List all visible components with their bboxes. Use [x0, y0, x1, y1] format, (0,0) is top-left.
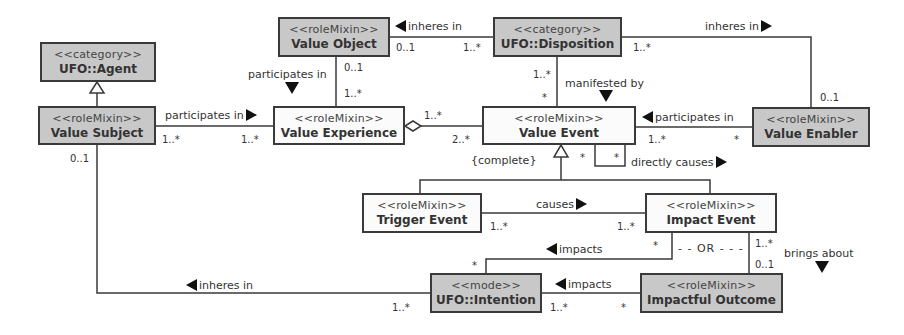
mult: 2..*: [452, 134, 470, 145]
mult: 1..*: [490, 221, 508, 232]
class-name: Value Enabler: [764, 127, 857, 142]
mult: 0..1: [396, 42, 415, 53]
label-vo-inheres-in: inheres in: [395, 20, 462, 33]
generalization-set-constraint: {complete}: [471, 155, 536, 167]
mult: 1..*: [533, 69, 551, 80]
mult: 1..*: [633, 42, 651, 53]
mult: *: [580, 152, 585, 163]
class-name: Value Subject: [51, 126, 144, 141]
class-value-object[interactable]: <<roleMixin>> Value Object: [278, 17, 390, 57]
mult: 1..*: [241, 134, 259, 145]
class-name: Trigger Event: [377, 213, 468, 228]
mult: *: [653, 240, 658, 251]
class-name: Impact Event: [666, 213, 755, 228]
class-value-event[interactable]: <<roleMixin>> Value Event: [482, 106, 636, 145]
class-value-subject[interactable]: <<roleMixin>> Value Subject: [38, 106, 156, 145]
stereotype: <<roleMixin>>: [667, 278, 756, 293]
mult: 1..*: [617, 221, 635, 232]
label-enabler-participates-in: participates in: [642, 111, 734, 124]
mult: 1..*: [162, 134, 180, 145]
mult: 0..1: [344, 62, 363, 73]
class-name: Value Event: [519, 126, 599, 141]
class-impactful-outcome[interactable]: <<roleMixin>> Impactful Outcome: [640, 273, 783, 313]
direction-arrow-icon: [285, 82, 299, 94]
class-name: UFO::Agent: [59, 62, 137, 77]
class-value-enabler[interactable]: <<roleMixin>> Value Enabler: [752, 107, 870, 147]
stereotype: <<roleMixin>>: [52, 111, 141, 126]
class-ufo-disposition[interactable]: <<category>> UFO::Disposition: [493, 17, 622, 57]
mult: 1..*: [344, 88, 362, 99]
mult: 1..*: [463, 42, 481, 53]
mult: *: [542, 92, 547, 103]
class-value-experience[interactable]: <<roleMixin>> Value Experience: [273, 106, 405, 145]
mult: 1..*: [550, 302, 568, 313]
mult: 1..*: [755, 238, 773, 249]
mult: 0..1: [820, 92, 839, 103]
class-name: Value Experience: [281, 126, 397, 141]
stereotype: <<category>>: [514, 22, 602, 37]
mult: *: [734, 134, 739, 145]
class-ufo-agent[interactable]: <<category>> UFO::Agent: [40, 42, 156, 82]
stereotype: <<roleMixin>>: [766, 112, 855, 127]
stereotype: <<category>>: [54, 47, 142, 62]
label-vs-participates-in: participates in: [165, 109, 257, 122]
or-constraint: - - OR - - -: [678, 243, 744, 255]
mult: 1..*: [424, 110, 442, 121]
direction-arrow-icon: [815, 261, 829, 273]
mult: 0..1: [70, 153, 89, 164]
label-outcome-impacts: impacts: [555, 278, 612, 291]
stereotype: <<roleMixin>>: [666, 198, 755, 213]
class-ufo-intention[interactable]: <<mode>> UFO::Intention: [430, 273, 542, 313]
class-name: Impactful Outcome: [647, 293, 776, 308]
class-name: UFO::Disposition: [501, 37, 615, 52]
label-intention-inheres-in: inheres in: [186, 279, 253, 292]
stereotype: <<roleMixin>>: [289, 22, 378, 37]
class-name: Value Object: [291, 37, 377, 52]
class-name: UFO::Intention: [436, 293, 536, 308]
stereotype: <<roleMixin>>: [294, 111, 383, 126]
stereotype: <<mode>>: [451, 278, 521, 293]
mult: 1..*: [392, 302, 410, 313]
mult: *: [621, 302, 626, 313]
stereotype: <<roleMixin>>: [514, 111, 603, 126]
stereotype: <<roleMixin>>: [377, 198, 466, 213]
label-causes: causes: [536, 198, 587, 211]
mult: *: [614, 152, 619, 163]
mult: 1..*: [648, 134, 666, 145]
label-disp-inheres-in: inheres in: [705, 20, 772, 33]
label-vo-participates-in: participates in: [248, 69, 327, 81]
direction-arrow-icon: [599, 90, 613, 102]
mult: *: [472, 260, 477, 271]
class-trigger-event[interactable]: <<roleMixin>> Trigger Event: [362, 193, 482, 233]
label-manifested-by: manifested by: [565, 78, 644, 90]
class-impact-event[interactable]: <<roleMixin>> Impact Event: [645, 193, 777, 233]
label-directly-causes: directly causes: [631, 156, 727, 169]
mult: 0..1: [755, 259, 774, 270]
label-brings-about: brings about: [784, 248, 853, 260]
label-impact-impacts: impacts: [546, 243, 603, 256]
